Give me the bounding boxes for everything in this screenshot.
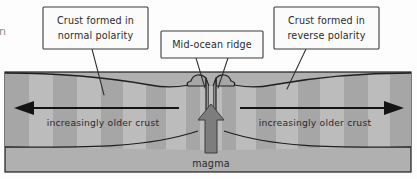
callout-normal-polarity-line1: Crust formed in — [57, 15, 134, 26]
callout-reverse-polarity-line1: Crust formed in — [288, 15, 365, 26]
margin-text-fragment: n — [0, 25, 6, 38]
callout-mid-ocean-ridge-line1: Mid-ocean ridge — [172, 39, 252, 50]
callout-reverse-polarity-line2: reverse polarity — [287, 30, 365, 41]
right-crust-label: increasingly older crust — [259, 117, 372, 128]
callout-normal-polarity[interactable]: Crust formed in normal polarity — [43, 7, 148, 49]
magma-label: magma — [192, 158, 230, 169]
callout-reverse-polarity[interactable]: Crust formed in reverse polarity — [274, 7, 379, 49]
callout-mid-ocean-ridge[interactable]: Mid-ocean ridge — [161, 31, 263, 58]
seafloor-spreading-diagram: increasingly older crust increasingly ol… — [0, 0, 417, 179]
left-crust-label: increasingly older crust — [47, 117, 160, 128]
figure-page: increasingly older crust increasingly ol… — [0, 0, 417, 179]
callout-normal-polarity-line2: normal polarity — [58, 30, 134, 41]
